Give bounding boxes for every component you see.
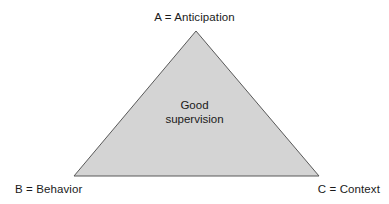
center-label-line-2: supervision bbox=[0, 113, 389, 127]
vertex-label-anticipation: A = Anticipation bbox=[0, 11, 389, 23]
center-label-line-1: Good bbox=[0, 99, 389, 113]
good-supervision-diagram: A = Anticipation B = Behavior C = Contex… bbox=[0, 0, 389, 204]
vertex-label-behavior: B = Behavior bbox=[15, 183, 82, 195]
triangle-center-label: Good supervision bbox=[0, 99, 389, 126]
vertex-label-context: C = Context bbox=[318, 183, 380, 195]
